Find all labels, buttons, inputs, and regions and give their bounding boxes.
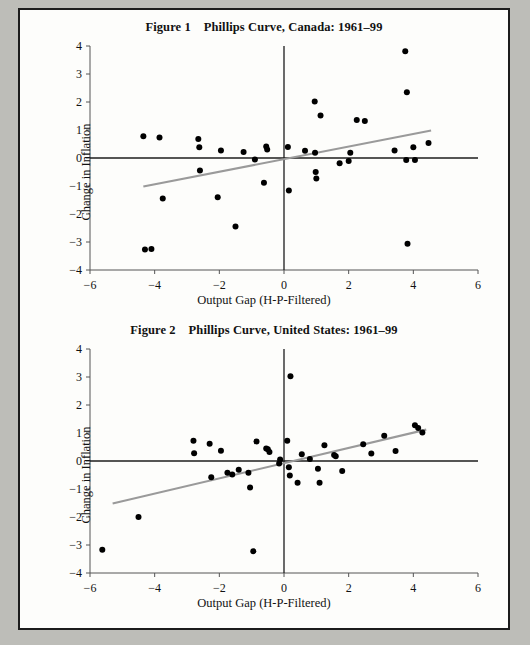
y-tick-label: 2 [76, 95, 82, 109]
figure-1-scatter-svg: −4−3−2−101234−6−4−20246 [44, 38, 484, 306]
figure-page: Figure 1 Phillips Curve, Canada: 1961–99… [0, 0, 530, 645]
x-tick-label: 4 [410, 581, 416, 595]
x-tick-label: −4 [148, 581, 161, 595]
scatter-point [218, 147, 224, 153]
figure-2-title: Figure 2 Phillips Curve, United States: … [20, 323, 508, 341]
x-tick-label: −2 [213, 278, 226, 292]
scatter-point [402, 48, 408, 54]
scatter-point [286, 464, 292, 470]
scatter-point [254, 438, 260, 444]
scatter-point [313, 169, 319, 175]
scatter-point [312, 98, 318, 104]
scatter-point [368, 450, 374, 456]
y-tick-label: −3 [69, 235, 82, 249]
scatter-point [245, 470, 251, 476]
page-sheet: Figure 1 Phillips Curve, Canada: 1961–99… [18, 8, 510, 630]
scatter-point [207, 441, 213, 447]
scatter-point [261, 180, 267, 186]
figure-1-title: Figure 1 Phillips Curve, Canada: 1961–99 [20, 20, 508, 38]
scatter-point [419, 429, 425, 435]
scatter-point [381, 433, 387, 439]
y-tick-label: 3 [76, 370, 82, 384]
scatter-point [241, 149, 247, 155]
scatter-point [233, 224, 239, 230]
scatter-point [412, 157, 418, 163]
scatter-point [347, 150, 353, 156]
x-tick-label: −2 [213, 581, 226, 595]
scatter-point [99, 547, 105, 553]
scatter-point [148, 246, 154, 252]
scatter-point [285, 144, 291, 150]
scatter-point [312, 150, 318, 156]
scatter-point [307, 456, 313, 462]
scatter-point [136, 514, 142, 520]
scatter-point [208, 474, 214, 480]
x-tick-label: −6 [84, 278, 97, 292]
scatter-point [404, 89, 410, 95]
x-tick-label: 2 [346, 278, 352, 292]
scatter-point [190, 438, 196, 444]
scatter-point [360, 441, 366, 447]
y-tick-label: −3 [69, 538, 82, 552]
y-tick-label: 3 [76, 67, 82, 81]
scatter-point [346, 158, 352, 164]
scatter-point [197, 168, 203, 174]
figure-2-scatter-svg: −4−3−2−101234−6−4−20246 [44, 341, 484, 609]
y-tick-label: 2 [76, 398, 82, 412]
scatter-point [236, 467, 242, 473]
figure-2-y-axis-label: Change in Inflation [79, 426, 94, 523]
scatter-point [321, 442, 327, 448]
scatter-point [252, 156, 258, 162]
scatter-point [392, 147, 398, 153]
scatter-point [284, 438, 290, 444]
scatter-point [286, 187, 292, 193]
x-tick-label: 0 [281, 278, 287, 292]
scatter-point [157, 135, 163, 141]
figure-1-x-axis-label: Output Gap (H-P-Filtered) [44, 293, 484, 308]
x-tick-label: 4 [410, 278, 416, 292]
x-tick-label: 2 [346, 581, 352, 595]
scatter-point [354, 117, 360, 123]
scatter-point [229, 471, 235, 477]
y-tick-label: −4 [69, 263, 82, 277]
scatter-point [215, 194, 221, 200]
scatter-point [160, 196, 166, 202]
x-tick-label: 6 [475, 581, 481, 595]
scatter-point [287, 373, 293, 379]
scatter-point [393, 448, 399, 454]
scatter-point [287, 473, 293, 479]
scatter-point [250, 548, 256, 554]
scatter-point [333, 453, 339, 459]
y-tick-label: 4 [76, 342, 82, 356]
scatter-point [410, 144, 416, 150]
figure-2-plot: Change in Inflation −4−3−2−101234−6−4−20… [44, 341, 484, 609]
x-tick-label: 6 [475, 278, 481, 292]
scatter-point [313, 175, 319, 181]
scatter-point [196, 144, 202, 150]
scatter-point [415, 425, 421, 431]
scatter-point [302, 148, 308, 154]
scatter-point [339, 468, 345, 474]
scatter-point [426, 140, 432, 146]
figure-2-block: Figure 2 Phillips Curve, United States: … [20, 323, 508, 623]
scatter-point [195, 136, 201, 142]
scatter-point [362, 118, 368, 124]
trend-line [113, 430, 427, 504]
y-tick-label: −4 [69, 566, 82, 580]
scatter-point [218, 448, 224, 454]
scatter-point [277, 457, 283, 463]
scatter-point [403, 157, 409, 163]
scatter-point [317, 480, 323, 486]
figure-2-x-axis-label: Output Gap (H-P-Filtered) [44, 596, 484, 611]
scatter-point [266, 449, 272, 455]
scatter-point [247, 485, 253, 491]
figure-1-y-axis-label: Change in Inflation [79, 123, 94, 220]
scatter-point [315, 466, 321, 472]
scatter-point [337, 160, 343, 166]
scatter-point [264, 147, 270, 153]
x-tick-label: −4 [148, 278, 161, 292]
scatter-point [405, 241, 411, 247]
scatter-point [142, 247, 148, 253]
scatter-point [140, 133, 146, 139]
x-tick-label: −6 [84, 581, 97, 595]
